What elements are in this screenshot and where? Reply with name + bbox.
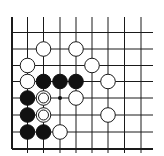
white-stone [85, 58, 100, 73]
black-stone [20, 91, 35, 106]
black-stone [36, 125, 51, 140]
black-stone [20, 125, 35, 140]
black-stone [36, 74, 51, 89]
point-mark-dot [58, 96, 62, 100]
white-stone [20, 58, 35, 73]
white-stone [53, 125, 68, 140]
white-stone [101, 108, 116, 123]
stones [20, 42, 115, 140]
black-stone [69, 74, 84, 89]
black-stone [53, 74, 68, 89]
go-board [0, 0, 164, 156]
white-stone [101, 74, 116, 89]
point-marks [58, 96, 62, 100]
black-stone [20, 108, 35, 123]
white-stone [69, 91, 84, 106]
white-stone [36, 42, 51, 57]
white-stone [20, 74, 35, 89]
white-stone [69, 42, 84, 57]
